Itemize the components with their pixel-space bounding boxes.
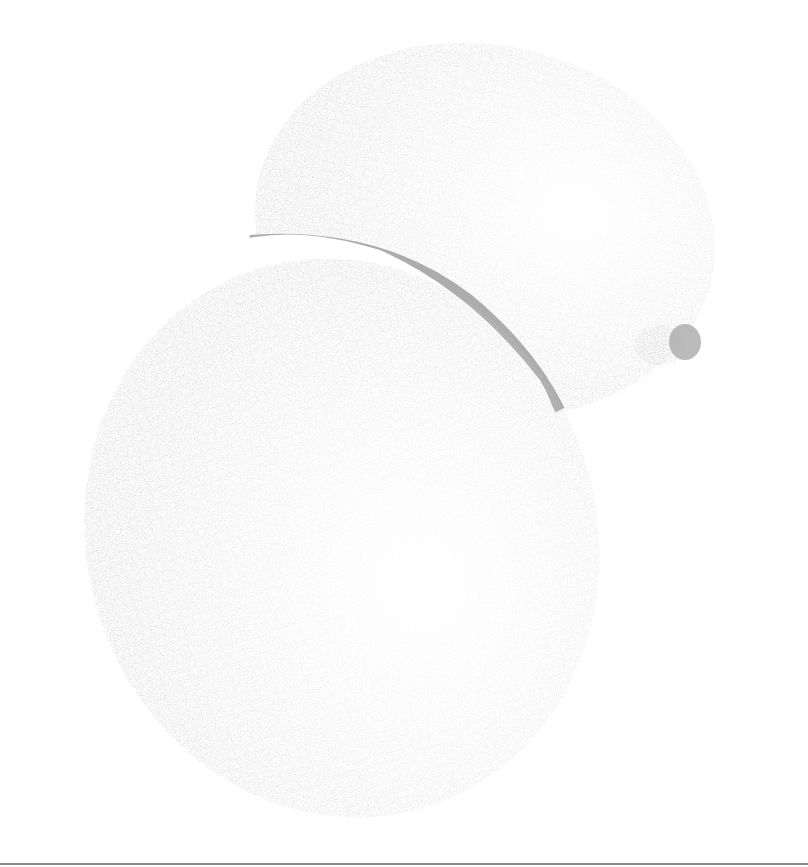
stem-icon bbox=[634, 324, 701, 365]
bottom-rule bbox=[0, 863, 808, 865]
mango-illustration bbox=[0, 0, 808, 860]
